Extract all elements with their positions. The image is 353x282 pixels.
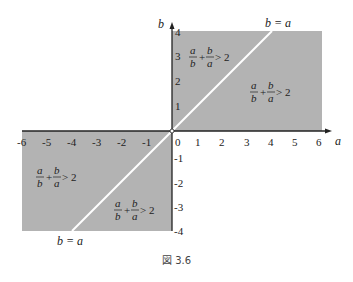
svg-text:4: 4 bbox=[268, 136, 274, 148]
svg-text:a: a bbox=[268, 92, 274, 104]
svg-text:1: 1 bbox=[195, 136, 201, 148]
svg-text:-6: -6 bbox=[17, 136, 27, 148]
svg-text:b: b bbox=[54, 164, 60, 176]
svg-text:3: 3 bbox=[175, 50, 181, 62]
svg-text:b: b bbox=[190, 57, 196, 69]
svg-text:b: b bbox=[37, 177, 43, 189]
x-axis-arrow-icon bbox=[325, 129, 332, 134]
svg-text:b: b bbox=[115, 210, 121, 222]
y-axis-label: b bbox=[158, 17, 164, 31]
origin-marker bbox=[170, 129, 174, 133]
line-label-bottom: b = a bbox=[57, 234, 83, 248]
coordinate-plane: b a -6 -5 -4 -3 -2 -1 0 1 2 3 4 5 6 4 3 … bbox=[0, 0, 353, 282]
svg-text:-2: -2 bbox=[174, 177, 183, 189]
svg-text:-3: -3 bbox=[174, 201, 184, 213]
svg-text:-1: -1 bbox=[142, 136, 151, 148]
y-axis-arrow-icon bbox=[170, 22, 175, 29]
svg-text:b: b bbox=[207, 44, 213, 56]
line-label-top: b = a bbox=[265, 16, 291, 30]
svg-text:> 2: > 2 bbox=[215, 51, 229, 63]
svg-text:3: 3 bbox=[244, 136, 250, 148]
svg-text:b: b bbox=[132, 197, 138, 209]
svg-text:a: a bbox=[54, 177, 60, 189]
svg-text:5: 5 bbox=[292, 136, 298, 148]
svg-text:a: a bbox=[207, 57, 213, 69]
svg-text:a: a bbox=[132, 210, 138, 222]
svg-text:+: + bbox=[199, 51, 205, 63]
svg-text:-4: -4 bbox=[174, 225, 184, 237]
svg-text:+: + bbox=[124, 204, 130, 216]
svg-text:-2: -2 bbox=[117, 136, 126, 148]
svg-text:+: + bbox=[46, 171, 52, 183]
svg-text:a: a bbox=[115, 197, 121, 209]
svg-text:a: a bbox=[190, 44, 196, 56]
svg-text:+: + bbox=[260, 86, 266, 98]
x-axis-label: a bbox=[335, 134, 341, 148]
svg-text:1: 1 bbox=[175, 100, 181, 112]
svg-text:a: a bbox=[37, 164, 43, 176]
svg-text:b: b bbox=[268, 79, 274, 91]
svg-text:6: 6 bbox=[316, 136, 322, 148]
figure-caption: 図 3.6 bbox=[0, 252, 353, 267]
svg-text:2: 2 bbox=[219, 136, 225, 148]
svg-text:4: 4 bbox=[175, 26, 181, 38]
svg-text:-4: -4 bbox=[67, 136, 77, 148]
svg-text:-1: -1 bbox=[174, 152, 183, 164]
svg-text:> 2: > 2 bbox=[276, 86, 290, 98]
svg-text:> 2: > 2 bbox=[62, 171, 76, 183]
svg-text:-5: -5 bbox=[42, 136, 52, 148]
svg-text:0: 0 bbox=[175, 136, 181, 148]
svg-text:> 2: > 2 bbox=[140, 204, 154, 216]
svg-text:2: 2 bbox=[175, 75, 181, 87]
svg-text:-3: -3 bbox=[92, 136, 102, 148]
svg-text:a: a bbox=[251, 79, 257, 91]
svg-text:b: b bbox=[251, 92, 257, 104]
